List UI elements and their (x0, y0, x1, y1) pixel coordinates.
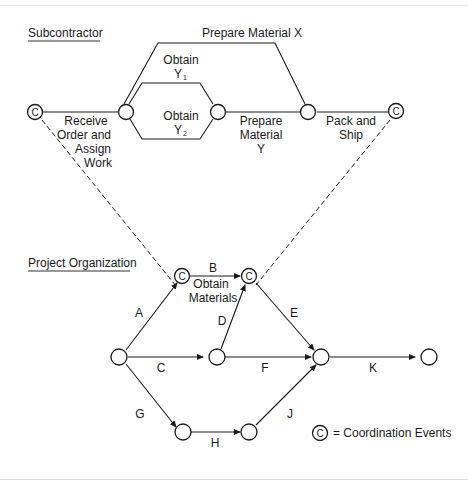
svg-text:C: C (392, 106, 399, 117)
svg-text:1: 1 (183, 74, 187, 81)
edge-a (126, 283, 177, 350)
section-title-subcontractor: Subcontractor (28, 26, 103, 40)
label-receive-3: Assign (75, 142, 111, 156)
edge-g (126, 364, 176, 427)
label-j: J (287, 407, 293, 421)
label-d: D (218, 314, 227, 328)
sub-node-3 (211, 105, 226, 120)
sub-node-start-coordination: C (28, 105, 43, 120)
label-receive-1: Receive (64, 114, 108, 128)
label-h: H (211, 436, 220, 450)
network-diagram: Subcontractor Project Organization C C P… (0, 0, 468, 488)
proj-node-hj (241, 424, 257, 440)
label-k: K (369, 361, 377, 375)
coordination-link-end (256, 120, 390, 285)
label-prepare-y-2: Material (240, 128, 283, 142)
label-c: C (157, 361, 166, 375)
legend: C = Coordination Events (313, 426, 452, 441)
sub-node-end-coordination: C (389, 104, 404, 119)
label-f: F (261, 361, 268, 375)
proj-node-start (111, 349, 127, 365)
edge-e (256, 283, 314, 350)
proj-node-end (421, 349, 437, 365)
svg-text:C: C (31, 107, 38, 118)
svg-text:2: 2 (183, 130, 187, 137)
section-project-organization: Project Organization (28, 256, 137, 271)
label-prepare-y-1: Prepare (240, 114, 283, 128)
proj-node-coordination-1: C (175, 269, 190, 284)
label-y2: Y (174, 123, 182, 137)
svg-text:C: C (178, 271, 185, 282)
legend-text: = Coordination Events (333, 426, 451, 440)
label-y1: Y (174, 67, 182, 81)
proj-node-gh (175, 424, 191, 440)
label-prepare-material-x: Prepare Material X (202, 26, 302, 40)
label-pack-1: Pack and (326, 114, 376, 128)
label-a: A (135, 306, 143, 320)
proj-node-cf (209, 349, 225, 365)
sub-node-4 (301, 105, 316, 120)
label-b-desc-2: Materials (189, 291, 238, 305)
sub-node-2 (119, 105, 134, 120)
label-e: E (290, 306, 298, 320)
proj-node-coordination-2: C (242, 269, 257, 284)
edge-obtain-y1 (129, 83, 213, 104)
edge-prepare-material-x (124, 43, 305, 104)
section-subcontractor: Subcontractor (28, 26, 103, 41)
label-prepare-y-3: Y (257, 142, 265, 156)
section-title-project-organization: Project Organization (28, 256, 137, 270)
label-pack-2: Ship (339, 128, 363, 142)
proj-node-merge (313, 349, 329, 365)
label-g: G (135, 407, 144, 421)
label-b-desc-1: Obtain (193, 277, 228, 291)
label-obtain-y1: Obtain (163, 53, 198, 67)
svg-text:C: C (316, 428, 323, 439)
label-receive-4: Work (84, 156, 113, 170)
svg-text:C: C (245, 271, 252, 282)
label-b: B (209, 261, 217, 275)
label-receive-2: Order and (57, 128, 111, 142)
label-obtain-y2: Obtain (163, 109, 198, 123)
